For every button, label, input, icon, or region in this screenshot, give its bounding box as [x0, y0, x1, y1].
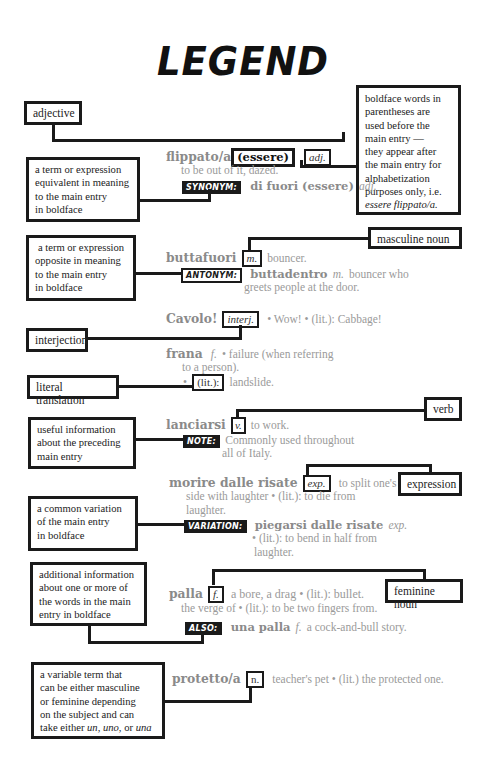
connector-line [88, 641, 204, 644]
label-synonym: a term or expression equivalent in meani… [26, 157, 140, 222]
connector-line [249, 687, 252, 703]
literal-line: • (lit.): landslide. [183, 374, 274, 391]
connector-line [212, 569, 426, 572]
connector-line [236, 409, 424, 412]
lit-box: (lit.): [192, 374, 224, 391]
connector-line [88, 337, 242, 340]
connector-line [52, 139, 344, 142]
label-literal-translation: literal translation [27, 375, 119, 399]
variation-tag: VARIATION: [184, 520, 247, 533]
label-expression: expression [398, 472, 462, 496]
connector-line [119, 385, 193, 388]
headword: flippato/a [166, 149, 231, 164]
connector-line [248, 237, 368, 240]
note-tag: NOTE: [183, 435, 220, 448]
label-masculine-noun: masculine noun [368, 227, 462, 249]
label-boldface-parentheses: boldface words in parentheses are used b… [356, 85, 461, 215]
antonym-tag: ANTONYM: [181, 268, 242, 283]
label-variable-term: a variable term that can be either mascu… [31, 662, 165, 739]
entry-protetto: protetto/a n. teacher's pet • (lit.) the… [172, 671, 444, 688]
connector-line [138, 523, 186, 526]
also-tag: ALSO: [185, 622, 222, 635]
label-verb: verb [424, 397, 462, 421]
synonym-tag: SYNONYM: [182, 181, 241, 194]
connector-line [342, 132, 345, 142]
pos-box: n. [246, 671, 264, 688]
also-line: ALSO: una palla f. a cock-and-bull story… [185, 619, 407, 635]
label-adjective: adjective [24, 101, 82, 125]
connector-line [136, 438, 184, 441]
page-title: LEGEND [0, 39, 486, 84]
label-variation: a common variation of the main entry in … [28, 496, 138, 551]
pos-box: adj. [304, 149, 331, 166]
label-interjection: interjection [26, 328, 88, 352]
label-feminine-noun: feminine noun [385, 579, 463, 603]
connector-line [140, 199, 211, 202]
entry-cavolo: Cavolo! interj. • Wow! • (lit.): Cabbage… [166, 311, 382, 328]
connector-line [136, 272, 182, 275]
entry-frana: frana f. • failure (when referring [166, 346, 334, 361]
connector-line [212, 569, 215, 585]
label-note: useful information about the preceding m… [28, 417, 136, 469]
label-antonym: a term or expression opposite in meaning… [26, 235, 136, 301]
connector-line [306, 464, 432, 467]
connector-line [300, 165, 358, 168]
connector-line [208, 189, 211, 202]
label-also: additional information about one or more… [30, 562, 147, 626]
connector-line [248, 237, 251, 251]
connector-line [165, 700, 252, 703]
connector-line [300, 160, 303, 168]
definition: to be out of it, dazed. [181, 163, 278, 177]
entry-buttafuori: buttafuori m. bouncer. [166, 250, 307, 267]
synonym-line: SYNONYM: di fuori (essere) adj. [182, 178, 377, 194]
connector-line [239, 325, 242, 340]
